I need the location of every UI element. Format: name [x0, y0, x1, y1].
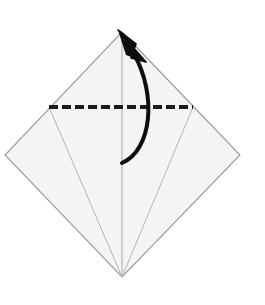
origami-diagram: [0, 0, 265, 305]
origami-figure: [0, 0, 265, 305]
